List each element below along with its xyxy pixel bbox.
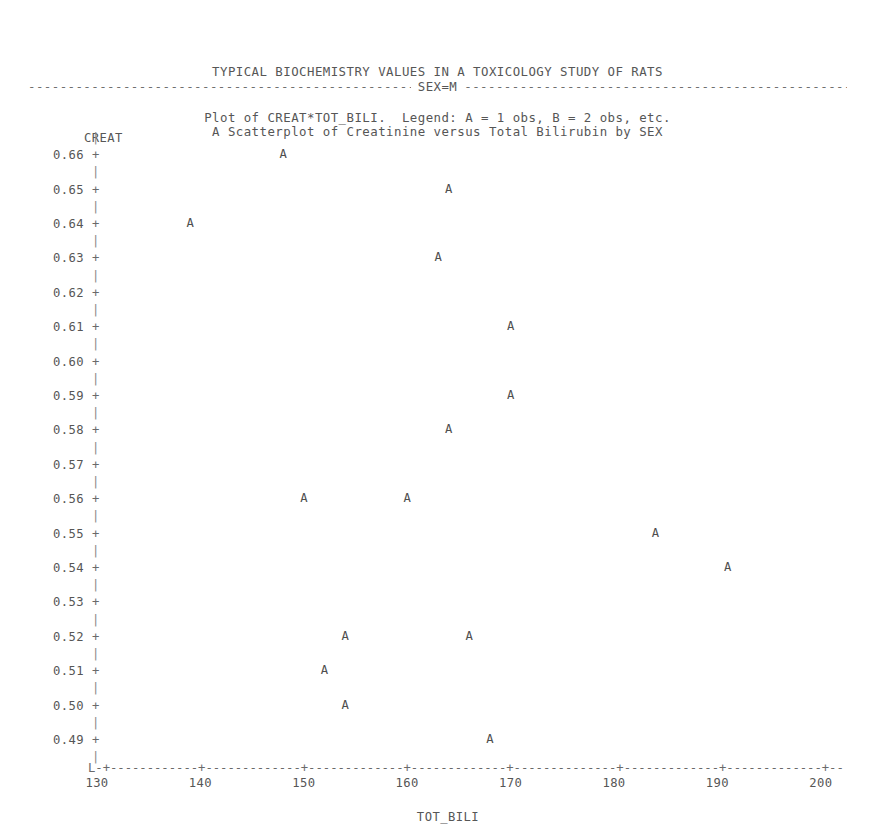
x-axis-line: L-+------------+-------------+----------… <box>88 761 844 775</box>
data-point: A <box>299 492 309 504</box>
y-axis-bar: | <box>92 647 99 661</box>
y-axis-tick-mark: + <box>92 320 99 334</box>
y-axis-tick-label: 0.54 <box>6 561 84 575</box>
data-point: A <box>506 320 516 332</box>
y-axis-tick-mark: + <box>92 183 99 197</box>
y-axis-bar: | <box>92 131 99 145</box>
y-axis-tick-label: 0.50 <box>6 699 84 713</box>
y-axis-tick-mark: + <box>92 733 99 747</box>
data-point: A <box>444 423 454 435</box>
y-axis-tick-mark: + <box>92 630 99 644</box>
y-axis-bar: | <box>92 165 99 179</box>
y-axis-tick-mark: + <box>92 527 99 541</box>
y-axis-tick-mark: + <box>92 664 99 678</box>
y-axis-tick-mark: + <box>92 458 99 472</box>
y-axis-tick-label: 0.49 <box>6 733 84 747</box>
x-axis-tick-label: 130 <box>67 776 127 790</box>
y-axis-tick-mark: + <box>92 217 99 231</box>
y-axis-tick-mark: + <box>92 286 99 300</box>
y-axis-bar: | <box>92 234 99 248</box>
data-point: A <box>464 630 474 642</box>
y-axis-bar: | <box>92 200 99 214</box>
y-axis-tick-label: 0.60 <box>6 355 84 369</box>
y-axis-tick-label: 0.58 <box>6 423 84 437</box>
y-axis-bar: | <box>92 475 99 489</box>
x-axis-tick-label: 150 <box>274 776 334 790</box>
data-point: A <box>485 733 495 745</box>
x-axis-tick-label: 180 <box>584 776 644 790</box>
y-axis-bar: | <box>92 716 99 730</box>
y-axis-tick-mark: + <box>92 492 99 506</box>
y-axis-bar: | <box>92 372 99 386</box>
y-axis-tick-label: 0.63 <box>6 251 84 265</box>
y-axis-tick-label: 0.55 <box>6 527 84 541</box>
data-point: A <box>650 527 660 539</box>
y-axis-bar: | <box>92 441 99 455</box>
data-point: A <box>319 664 329 676</box>
y-axis-tick-label: 0.59 <box>6 389 84 403</box>
y-axis-tick-mark: + <box>92 595 99 609</box>
y-axis-tick-label: 0.53 <box>6 595 84 609</box>
data-point: A <box>506 389 516 401</box>
y-axis-tick-mark: + <box>92 389 99 403</box>
y-axis-tick-label: 0.65 <box>6 183 84 197</box>
y-axis-tick-label: 0.52 <box>6 630 84 644</box>
y-axis-tick-label: 0.64 <box>6 217 84 231</box>
y-axis-tick-label: 0.57 <box>6 458 84 472</box>
x-axis-tick-label: 160 <box>377 776 437 790</box>
y-axis-bar: | <box>92 509 99 523</box>
y-axis-tick-mark: + <box>92 423 99 437</box>
y-axis-bar: | <box>92 613 99 627</box>
y-axis-tick-mark: + <box>92 355 99 369</box>
y-axis-tick-label: 0.62 <box>6 286 84 300</box>
x-axis-tick-label: 170 <box>481 776 541 790</box>
y-axis-bar: | <box>92 681 99 695</box>
y-axis-tick-label: 0.66 <box>6 148 84 162</box>
data-point: A <box>340 630 350 642</box>
y-axis-bar: | <box>92 544 99 558</box>
y-axis-tick-mark: + <box>92 699 99 713</box>
x-axis-tick-label: 140 <box>170 776 230 790</box>
data-point: A <box>185 217 195 229</box>
data-point: A <box>340 699 350 711</box>
x-axis-title: TOT_BILI <box>348 810 548 824</box>
y-axis-tick-label: 0.56 <box>6 492 84 506</box>
y-axis-tick-mark: + <box>92 251 99 265</box>
y-axis-tick-mark: + <box>92 148 99 162</box>
y-axis-tick-mark: + <box>92 561 99 575</box>
y-axis-tick-label: 0.51 <box>6 664 84 678</box>
y-axis-bar: | <box>92 406 99 420</box>
y-axis-bar: | <box>92 303 99 317</box>
data-point: A <box>723 561 733 573</box>
y-axis-tick-label: 0.61 <box>6 320 84 334</box>
y-axis-bar: | <box>92 337 99 351</box>
x-axis-tick-label: 190 <box>687 776 747 790</box>
data-point: A <box>278 148 288 160</box>
y-axis-bar: | <box>92 578 99 592</box>
data-point: A <box>433 251 443 263</box>
y-axis-bar: | <box>92 269 99 283</box>
x-axis-tick-label: 200 <box>791 776 851 790</box>
data-point: A <box>402 492 412 504</box>
data-point: A <box>444 183 454 195</box>
